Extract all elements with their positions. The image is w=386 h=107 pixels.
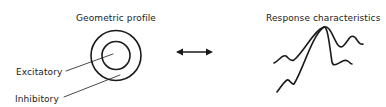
inhibitory-surround-circle — [91, 31, 141, 81]
excitatory-leader-line — [66, 54, 113, 71]
excitatory-center-circle — [102, 42, 130, 70]
inhibitory-leader-line — [64, 75, 120, 97]
double-arrow-icon — [176, 49, 213, 56]
response-curve-lower — [277, 27, 352, 92]
diagram-canvas — [0, 0, 386, 107]
